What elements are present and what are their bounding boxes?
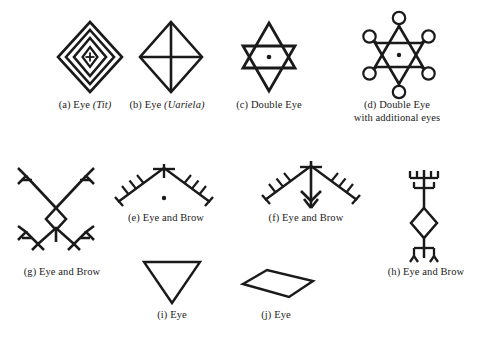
concentric-diamonds-icon [52, 18, 128, 96]
caption-a-text: (a) Eye (Tit) [59, 99, 112, 110]
caption-i: (i) Eye [122, 309, 222, 322]
figure-a-concentric-diamonds-with-cross [52, 18, 128, 96]
symbol-plate: (a) Eye (Tit) (b) Eye (Uariela) (c) Doub… [0, 0, 488, 353]
chevron-comb-icon [108, 164, 220, 212]
caption-g-text: (g) Eye and Brow [24, 266, 101, 277]
caption-g: (g) Eye and Brow [0, 266, 124, 279]
hexagram-icon [230, 18, 308, 96]
caption-native-name: (Uariela) [164, 99, 205, 110]
caption-e-text: (e) Eye and Brow [128, 212, 204, 223]
hexagram-loops-icon [356, 10, 442, 100]
diamond-cross-icon [135, 18, 207, 96]
figure-i-downward-triangle [141, 258, 203, 306]
figure-d-hexagram-looped-points [356, 10, 442, 100]
caption-c-text: (c) Double Eye [236, 99, 302, 110]
figure-c-hexagram-with-dot [230, 18, 308, 96]
rhombus-icon [240, 266, 316, 302]
center-dot [267, 55, 272, 60]
caption-f-text: (f) Eye and Brow [269, 212, 344, 223]
caption-b: (b) Eye (Uariela) [112, 99, 222, 112]
caption-j: (j) Eye [226, 309, 326, 322]
caption-f: (f) Eye and Brow [248, 212, 364, 225]
figure-b-diamond-with-cross [135, 18, 207, 96]
center-dot [162, 196, 166, 200]
figure-f-chevron-comb-arrow [253, 158, 369, 214]
caption-h-text: (h) Eye and Brow [388, 266, 465, 277]
vertical-comb-diamond-icon [388, 166, 460, 264]
figure-g-cross-diamond-forks [8, 166, 104, 262]
cross-diamond-icon [8, 166, 104, 262]
caption-i-text: (i) Eye [157, 309, 187, 320]
caption-h: (h) Eye and Brow [364, 266, 488, 279]
chevron-arrow-icon [253, 158, 369, 214]
figure-e-chevron-comb-cross-dot [108, 164, 220, 212]
center-dot [397, 53, 401, 57]
caption-e: (e) Eye and Brow [108, 212, 224, 225]
caption-d-text: (d) Double Eye with additional eyes [354, 99, 441, 123]
figure-j-horizontal-rhombus [240, 266, 316, 302]
caption-d: (d) Double Eye with additional eyes [334, 99, 460, 124]
caption-native-name: (Tit) [93, 99, 112, 110]
caption-j-text: (j) Eye [261, 309, 291, 320]
caption-c: (c) Double Eye [214, 99, 324, 112]
figure-h-vertical-comb-diamond [388, 166, 460, 264]
caption-b-text: (b) Eye (Uariela) [129, 99, 204, 110]
triangle-down-icon [141, 258, 203, 306]
